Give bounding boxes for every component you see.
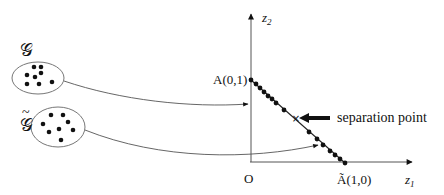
point-A-tilde-label: Ã(1,0) — [337, 172, 371, 187]
segment-point — [266, 94, 271, 99]
tilde-accent: ~ — [22, 105, 30, 120]
segment-point — [328, 149, 333, 154]
sample-point — [71, 128, 76, 133]
sample-point — [61, 113, 66, 118]
separation-arrow — [299, 113, 330, 123]
separation-arrow-shaft — [308, 116, 330, 120]
set-g-label: 𝒢 — [20, 40, 33, 60]
segment-point — [307, 130, 312, 135]
sample-point — [57, 127, 62, 132]
segment-point — [282, 108, 287, 113]
segment-point — [270, 97, 275, 102]
segment-point — [258, 86, 263, 91]
separation-point-label: separation point — [337, 110, 427, 125]
mapping-arrow-g-tilde — [85, 130, 318, 155]
segment-point — [249, 78, 254, 83]
sample-point — [25, 73, 30, 78]
sample-point — [41, 122, 46, 127]
point-A-label: A(0,1) — [213, 72, 247, 87]
separation-diagram: 𝒢 𝒢 ~ z1 z2 O A(0,1) Ã(1,0) × separation… — [0, 0, 444, 195]
segment-point — [343, 161, 348, 166]
sample-point — [37, 82, 42, 87]
z1-axis-label: z1 — [404, 172, 415, 189]
origin-label: O — [244, 171, 253, 186]
sample-point — [39, 65, 44, 70]
sample-point — [49, 113, 54, 118]
segment-point — [321, 143, 326, 148]
sample-point — [32, 65, 37, 70]
sample-point — [33, 75, 38, 80]
segment-point — [333, 153, 338, 158]
segment-point — [262, 90, 267, 95]
separation-arrow-head — [299, 113, 309, 123]
sample-point — [47, 130, 52, 135]
sample-point — [25, 82, 30, 87]
sample-point — [59, 138, 64, 143]
segment-point — [254, 82, 259, 87]
segment-point — [338, 157, 343, 162]
sample-point — [50, 80, 55, 85]
set-g-cluster — [12, 62, 64, 94]
sample-point — [66, 120, 71, 125]
set-ellipse — [12, 62, 64, 94]
set-g-tilde-cluster — [31, 107, 85, 147]
segment-point — [315, 137, 320, 142]
z2-axis-label: z2 — [261, 10, 272, 27]
separation-point-marker: × — [292, 113, 300, 124]
segment-point — [274, 101, 279, 106]
sample-point — [39, 71, 44, 76]
